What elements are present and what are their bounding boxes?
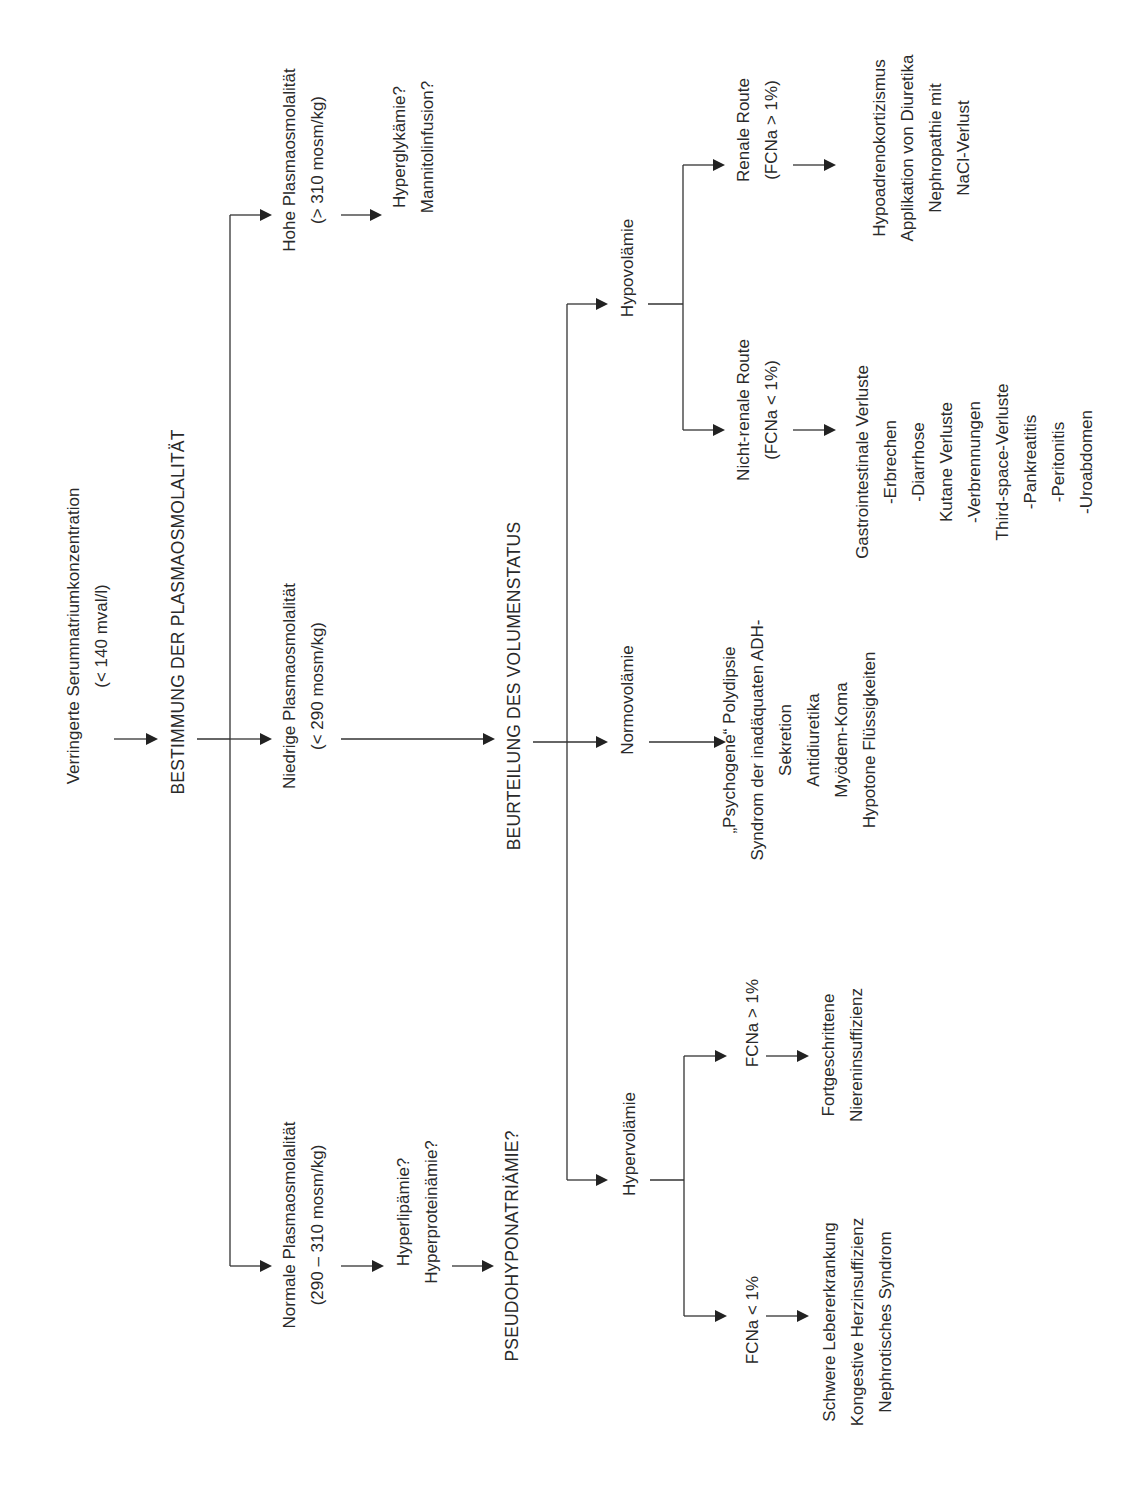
node-nonrenal-causes-line: -Diarrhose: [905, 365, 933, 559]
node-fcna-high-causes-line: Fortgeschrittene: [815, 988, 843, 1122]
node-low-osm-line: Niedrige Plasmaosmolalität: [276, 583, 304, 789]
arrowhead-icon: [715, 1310, 727, 1322]
arrowhead-icon: [713, 159, 725, 171]
arrowhead-icon: [146, 733, 158, 745]
arrowhead-icon: [260, 1260, 272, 1272]
node-nonrenal-causes-line: -Verbrennungen: [961, 365, 989, 559]
node-fcna-low-causes-line: Schwere Lebererkrankung: [816, 1218, 844, 1427]
node-nonrenal-route-line: (FCNa < 1%): [758, 339, 786, 481]
node-normal-osm-line: Normale Plasmaosmolalität: [276, 1122, 304, 1329]
arrowhead-icon: [797, 1310, 809, 1322]
node-step2-label: BEURTEILUNG DES VOLUMENSTATUS: [500, 522, 528, 851]
node-step1-label: BESTIMMUNG DER PLASMAOSMOLALITÄT: [164, 429, 192, 794]
node-normal-osm-line: (290 – 310 mosm/kg): [304, 1122, 332, 1329]
node-high-osm-line: Hohe Plasmaosmolalität: [276, 68, 304, 251]
node-start-line: (< 140 mval/l): [88, 488, 116, 785]
arrowhead-icon: [713, 424, 725, 436]
node-start-line: Verringerte Serumnatriumkonzentration: [60, 488, 88, 785]
node-nonrenal-causes-line: -Peritonitis: [1045, 365, 1073, 559]
node-normo-causes-line: Sekretion: [772, 620, 800, 861]
arrowhead-icon: [370, 209, 382, 221]
arrowhead-icon: [260, 209, 272, 221]
node-hypervolemia-label: Hypervolämie: [616, 1092, 644, 1196]
node-normovolemia-label: Normovolämie: [614, 645, 642, 755]
node-renal-causes-line: Hypoadrenokortizismus: [866, 54, 894, 241]
node-normo-causes-line: Syndrom der inadäquaten ADH-: [744, 620, 772, 861]
node-normal-osm-causes-line: Hyperproteinämie?: [418, 1140, 446, 1284]
node-nonrenal-route-line: Nicht-renale Route: [730, 339, 758, 481]
arrowhead-icon: [596, 298, 608, 310]
node-nonrenal-causes-line: -Pankreatitis: [1017, 365, 1045, 559]
node-low-osm-line: (< 290 mosm/kg): [304, 583, 332, 789]
arrowhead-icon: [372, 1260, 384, 1272]
node-fcna-high-label: FCNa > 1%: [739, 979, 767, 1067]
node-fcna-low-label: FCNa < 1%: [739, 1276, 767, 1364]
node-renal-route-line: (FCNa > 1%): [758, 78, 786, 182]
arrowhead-icon: [797, 1050, 809, 1062]
arrowhead-icon: [260, 733, 272, 745]
node-renal-causes-line: Applikation von Diuretika: [894, 54, 922, 241]
node-fcna-low-causes-line: Kongestive Herzinsuffizienz: [844, 1218, 872, 1427]
node-nonrenal-causes-line: Kutane Verluste: [933, 365, 961, 559]
node-high-osm-causes-line: Mannitolinfusion?: [414, 81, 442, 213]
node-normal-osm-causes-line: Hyperlipämie?: [390, 1140, 418, 1284]
node-pseudo-label: PSEUDOHYPONATRIÄMIE?: [498, 1130, 526, 1361]
node-hypovolemia-label: Hypovolämie: [614, 219, 642, 317]
node-renal-causes-line: Nephropathie mit: [922, 54, 950, 241]
node-nonrenal-causes-line: -Uroabdomen: [1073, 365, 1101, 559]
arrowhead-icon: [824, 424, 836, 436]
node-high-osm-line: (> 310 mosm/kg): [304, 68, 332, 251]
arrowhead-icon: [482, 1260, 494, 1272]
node-renal-route-line: Renale Route: [730, 78, 758, 182]
node-normo-causes-line: Hypotone Flüssigkeiten: [856, 620, 884, 861]
arrowhead-icon: [824, 159, 836, 171]
node-nonrenal-causes-line: -Erbrechen: [877, 365, 905, 559]
node-nonrenal-causes-line: Third-space-Verluste: [989, 365, 1017, 559]
arrowhead-icon: [483, 733, 495, 745]
arrowhead-icon: [715, 1050, 727, 1062]
node-normo-causes-line: Myödem-Koma: [828, 620, 856, 861]
node-fcna-low-causes-line: Nephrotisches Syndrom: [872, 1218, 900, 1427]
node-normo-causes-line: „Psychogene“ Polydipsie: [716, 620, 744, 861]
node-high-osm-causes-line: Hyperglykämie?: [386, 81, 414, 213]
node-renal-causes-line: NaCl-Verlust: [950, 54, 978, 241]
node-normo-causes-line: Antidiuretika: [800, 620, 828, 861]
node-fcna-high-causes-line: Niereninsuffizienz: [843, 988, 871, 1122]
node-nonrenal-causes-line: Gastrointestinale Verluste: [849, 365, 877, 559]
flowchart-hyponatremia: Verringerte Serumnatriumkonzentration (<…: [0, 0, 1140, 1494]
arrowhead-icon: [596, 1174, 608, 1186]
arrowhead-icon: [596, 736, 608, 748]
